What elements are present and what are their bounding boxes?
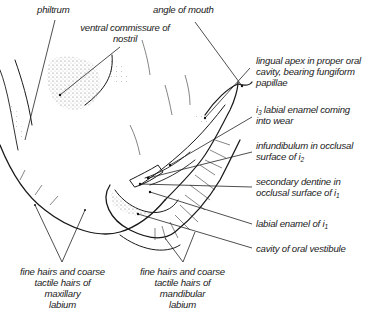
label-text: occlusal surface of i — [256, 187, 336, 198]
label-line: surface of i2 — [256, 151, 353, 162]
label-line: occlusal surface of i1 — [256, 187, 341, 198]
label-line: labium — [10, 299, 115, 310]
label-lingual-apex: lingual apex in proper oral cavity, bear… — [256, 55, 361, 88]
label-line: mandibular — [130, 288, 235, 299]
label-line: papillae — [256, 77, 361, 88]
label-subscript: 1 — [336, 192, 339, 199]
label-line: into wear — [256, 115, 350, 126]
label-subscript: 2 — [301, 156, 304, 163]
label-labial-enamel-i1: labial enamel of i1 — [256, 218, 328, 229]
label-text: labial enamel coming — [261, 104, 350, 115]
label-line: nostril — [70, 33, 180, 44]
label-subscript: 1 — [324, 223, 327, 230]
label-line: labium — [130, 299, 235, 310]
label-ventral-commissure: ventral commissure of nostril — [70, 22, 180, 44]
label-line: fine hairs and coarse — [10, 266, 115, 277]
label-oral-vestibule: cavity of oral vestibule — [256, 243, 346, 254]
label-i3-labial-enamel: i3 labial enamel coming into wear — [256, 104, 350, 126]
label-line: maxillary — [10, 288, 115, 299]
label-mandibular-hairs: fine hairs and coarse tactile hairs of m… — [130, 266, 235, 310]
label-line: tactile hairs of — [10, 277, 115, 288]
label-text: labial enamel of i — [256, 218, 324, 229]
label-line: fine hairs and coarse — [130, 266, 235, 277]
label-line: secondary dentine in — [256, 176, 341, 187]
label-line: ventral commissure of — [70, 22, 180, 33]
label-line: cavity, bearing fungiform — [256, 66, 361, 77]
label-line: lingual apex in proper oral — [256, 55, 361, 66]
label-maxillary-hairs: fine hairs and coarse tactile hairs of m… — [10, 266, 115, 310]
label-philtrum: philtrum — [37, 4, 70, 15]
label-angle-of-mouth: angle of mouth — [153, 4, 214, 15]
label-line: i3 labial enamel coming — [256, 104, 350, 115]
label-line: tactile hairs of — [130, 277, 235, 288]
label-infundibulum: infundibulum in occlusal surface of i2 — [256, 140, 353, 162]
label-secondary-dentine: secondary dentine in occlusal surface of… — [256, 176, 341, 198]
label-text: surface of i — [256, 151, 301, 162]
label-line: infundibulum in occlusal — [256, 140, 353, 151]
